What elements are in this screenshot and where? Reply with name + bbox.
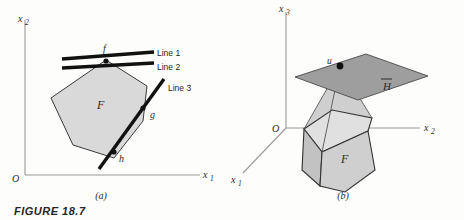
origin-label-a: O: [12, 173, 19, 184]
hyperplane-H: [295, 54, 428, 100]
axis-label-x1-b: x 1: [230, 174, 242, 188]
axis-label-x1-a: x 1: [202, 169, 214, 183]
panel-b: u H F x 3 x 2 x 1 O (: [230, 3, 435, 202]
vertex-dot-h: [111, 149, 116, 154]
panel-letter-a: (a): [95, 190, 107, 202]
axis-label-x1-a-sub: 1: [210, 174, 214, 183]
region-label-F-b: F: [340, 152, 349, 166]
axis-x1-line-b: [243, 128, 286, 173]
plane-label-H: H: [381, 79, 392, 92]
axis-label-x1-b-sub: 1: [238, 179, 242, 188]
vertex-label-g: g: [150, 109, 155, 120]
point-dot-u: [337, 63, 344, 70]
axis-label-x2-a-base: x: [17, 13, 23, 24]
plane-label-H-text: H: [382, 80, 392, 92]
region-label-F-a: F: [96, 98, 105, 112]
axis-label-x3-b-sub: 3: [285, 8, 290, 17]
axis-label-x2-b-base: x: [423, 122, 429, 133]
point-label-u: u: [327, 56, 332, 66]
figure-18-7-svg: f g h F Line 1 Line 2 Line 3 x 2 x 1 O (…: [0, 0, 464, 220]
line-1-segment: [62, 52, 154, 59]
vertex-label-h: h: [119, 153, 124, 164]
axis-label-x2-b-sub: 2: [431, 127, 435, 136]
line-1-label: Line 1: [157, 48, 180, 58]
vertex-dot-f: [103, 58, 108, 63]
vertex-label-f: f: [103, 43, 107, 54]
figure-caption: FIGURE 18.7: [14, 205, 86, 217]
line-2-label: Line 2: [157, 62, 180, 72]
panel-a: f g h F Line 1 Line 2 Line 3 x 2 x 1 O (…: [12, 13, 214, 202]
figure-container: f g h F Line 1 Line 2 Line 3 x 2 x 1 O (…: [0, 0, 464, 220]
axis-label-x3-b-base: x: [278, 3, 284, 14]
axis-label-x1-b-base: x: [230, 174, 236, 185]
axis-label-x2-b: x 2: [423, 122, 435, 136]
axis-label-x3-b: x 3: [278, 3, 290, 17]
axis-label-x1-a-base: x: [202, 169, 208, 180]
axis-label-x2-a-sub: 2: [25, 18, 29, 27]
line-3-label: Line 3: [168, 83, 191, 93]
panel-letter-b: (b): [337, 190, 349, 202]
origin-label-b: O: [272, 123, 279, 134]
axis-label-x2-a: x 2: [17, 13, 29, 27]
vertex-dot-g: [140, 105, 145, 110]
